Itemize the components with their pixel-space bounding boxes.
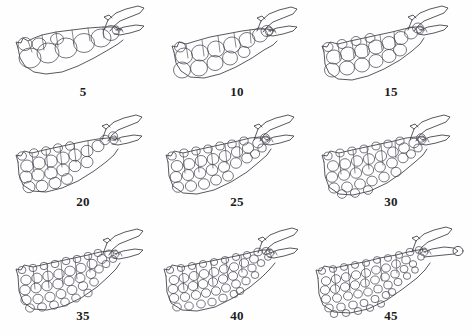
- cell-group: [18, 249, 117, 312]
- head-process: [103, 229, 143, 259]
- head-process: [412, 227, 463, 257]
- panel-label-30: 30: [312, 194, 470, 210]
- head-process: [258, 228, 298, 258]
- figure-panel-45: 45: [312, 224, 470, 336]
- panel-label-25: 25: [158, 194, 316, 210]
- panel-label-45: 45: [312, 308, 470, 324]
- cell-group: [18, 26, 119, 69]
- figure-panel-40: 40: [158, 224, 316, 336]
- cell-group: [166, 247, 271, 311]
- panel-label-20: 20: [4, 194, 162, 210]
- figure-panel-10: 10: [158, 0, 316, 112]
- cell-group: [18, 132, 118, 193]
- head-process: [102, 115, 142, 145]
- figure-panel-25: 25: [158, 110, 316, 222]
- cell-group: [168, 134, 270, 193]
- body-outline: [16, 27, 123, 74]
- panel-label-15: 15: [312, 84, 470, 100]
- figure-panel-15: 15: [312, 0, 470, 112]
- body-outline: [16, 251, 120, 310]
- figure-plate: 5: [0, 0, 473, 336]
- panel-label-10: 10: [158, 84, 316, 100]
- cell-group: [318, 247, 424, 318]
- head-process: [254, 115, 294, 145]
- panel-label-40: 40: [158, 308, 316, 324]
- head-process: [410, 115, 450, 145]
- panel-label-35: 35: [4, 308, 162, 324]
- head-process: [104, 6, 144, 35]
- cell-group: [323, 23, 424, 77]
- head-process: [408, 6, 448, 35]
- panel-label-5: 5: [4, 84, 162, 100]
- figure-panel-20: 20: [4, 110, 162, 222]
- head-process: [257, 7, 297, 36]
- body-outline: [316, 249, 430, 313]
- cell-group: [174, 26, 274, 79]
- figure-panel-5: 5: [4, 0, 162, 112]
- figure-panel-35: 35: [4, 224, 162, 336]
- figure-panel-30: 30: [312, 110, 470, 222]
